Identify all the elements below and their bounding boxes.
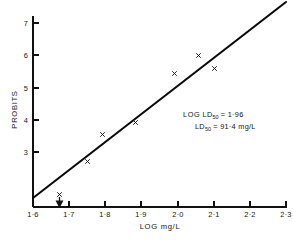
x-axis-title: LOG mg/L — [140, 222, 181, 231]
data-point-6 — [197, 54, 201, 58]
ld-var-text-1: LD — [203, 110, 213, 119]
data-point-1 — [58, 193, 62, 197]
y-tick-label-7: 7 — [14, 19, 28, 28]
ld50-value: 91·4 mg/L — [220, 122, 256, 131]
ld50-annotation-line-1: LOG LD50 = 1·96 — [183, 110, 256, 122]
log-ld50-value: 1·96 — [228, 110, 244, 119]
data-point-3 — [101, 133, 105, 137]
probit-regression-chart: 1·6 1·7 1·8 1·9 2·0 2·1 2·2 2·3 7 6 5 4 … — [0, 0, 293, 240]
x-tick-label-1-9: 1·9 — [135, 210, 146, 219]
x-tick-label-2-1: 2·1 — [208, 210, 219, 219]
ld50-annotation: LOG LD50 = 1·96 LD50 = 91·4 mg/L — [183, 110, 256, 134]
ld-subscript-1: 50 — [212, 114, 218, 120]
x-tick-label-2-0: 2·0 — [172, 210, 183, 219]
ld-subscript-2: 50 — [205, 126, 211, 132]
x-tick-label-2-3: 2·3 — [280, 210, 291, 219]
log-prefix-text: LOG — [183, 110, 200, 119]
ld-var-text-2: LD — [195, 122, 205, 131]
data-point-7 — [213, 67, 217, 71]
x-tick-label-1-8: 1·8 — [99, 210, 110, 219]
x-axis-ticks — [33, 201, 286, 207]
regression-line — [33, 2, 286, 198]
x-tick-label-2-2: 2·2 — [244, 210, 255, 219]
data-point-2 — [86, 160, 90, 164]
ld50-annotation-line-2: LD50 = 91·4 mg/L — [183, 122, 256, 134]
equals-sign-1: = — [221, 110, 226, 119]
data-point-5 — [173, 72, 177, 76]
x-tick-label-1-7: 1·7 — [63, 210, 74, 219]
down-arrow-icon — [57, 197, 63, 207]
y-axis-title: PROBITS — [10, 80, 19, 140]
y-axis-ticks — [33, 23, 39, 152]
x-tick-label-1-6: 1·6 — [27, 210, 38, 219]
y-tick-label-6: 6 — [14, 51, 28, 60]
y-tick-label-3: 3 — [14, 148, 28, 157]
data-point-4 — [134, 121, 138, 125]
equals-sign-2: = — [213, 122, 218, 131]
